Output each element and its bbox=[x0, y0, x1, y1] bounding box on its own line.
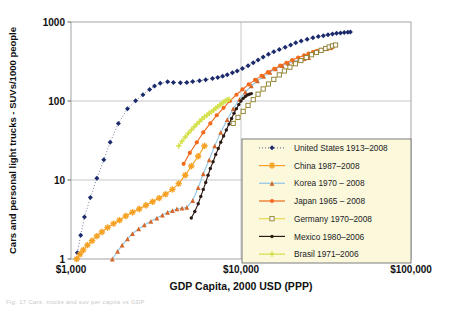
x-tick-label: $100,000 bbox=[390, 264, 432, 275]
figure-caption: Fig. 17 Cars, trucks and suv per capita … bbox=[6, 299, 145, 305]
legend-label: Korea 1970 – 2008 bbox=[294, 178, 365, 188]
y-tick-label: 1000 bbox=[43, 17, 66, 28]
legend-label: Germany 1970–2008 bbox=[294, 214, 372, 224]
x-tick-label: $1,000 bbox=[56, 264, 87, 275]
chart-svg: 1101001000$1,000$10,000$100,000GDP Capit… bbox=[0, 0, 450, 315]
x-axis-label: GDP Capita, 2000 USD (PPP) bbox=[170, 280, 313, 292]
x-tick-label: $10,000 bbox=[223, 264, 260, 275]
y-tick-label: 1 bbox=[59, 254, 65, 265]
y-axis-label: Cars and personal light trucks - SUVs/10… bbox=[7, 27, 18, 254]
y-tick-label: 100 bbox=[48, 96, 65, 107]
legend-label: China 1987–2008 bbox=[294, 161, 360, 171]
figure-container: 1101001000$1,000$10,000$100,000GDP Capit… bbox=[0, 0, 450, 315]
chart-legend[interactable]: United States 1913–2008China 1987–2008Ko… bbox=[242, 139, 411, 263]
y-tick-label: 10 bbox=[54, 175, 66, 186]
legend-label: Japan 1965 – 2008 bbox=[294, 196, 365, 206]
legend-label: United States 1913–2008 bbox=[294, 143, 388, 153]
legend-label: Mexico 1980–2006 bbox=[294, 232, 365, 242]
legend-label: Brasil 1971–2006 bbox=[294, 249, 359, 259]
